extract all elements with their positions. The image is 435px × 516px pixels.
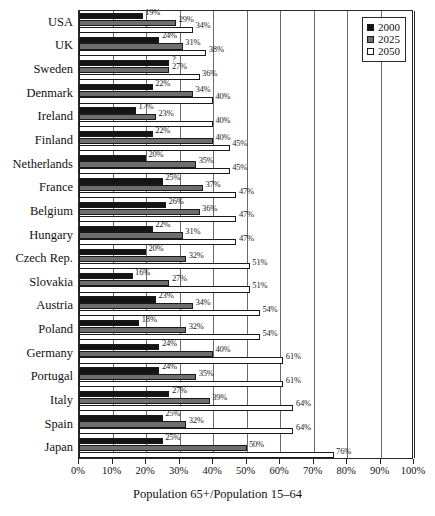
bar-2025 xyxy=(79,280,169,286)
legend-item: 2050 xyxy=(367,46,400,57)
x-tick xyxy=(78,459,79,464)
legend-label: 2000 xyxy=(378,22,400,33)
bar-value-label: 64% xyxy=(296,399,311,408)
bar-value-label: 36% xyxy=(202,204,217,213)
bar-value-label: 50% xyxy=(249,440,264,449)
bar-group: 16%27%51% xyxy=(79,271,412,295)
bar-value-label: 18% xyxy=(142,315,157,324)
bar-value-label: 27% xyxy=(172,62,187,71)
bar-group-inner: 22%40%45% xyxy=(79,129,412,153)
bar-value-label: 45% xyxy=(232,139,247,148)
bar-group: 17%23%40% xyxy=(79,106,412,130)
bar-value-label: 34% xyxy=(195,85,210,94)
bar-value-label: 34% xyxy=(195,21,210,30)
category-label: USA xyxy=(48,14,73,29)
bar-2000 xyxy=(79,273,133,279)
bar-value-label: 23% xyxy=(159,291,174,300)
bar-value-label: 51% xyxy=(252,258,267,267)
bar-value-label: 47% xyxy=(239,210,254,219)
category-label: Sweden xyxy=(33,62,73,77)
bar-value-label: 40% xyxy=(216,92,231,101)
bar-value-label: 47% xyxy=(239,234,254,243)
bar-group-inner: 26%36%47% xyxy=(79,200,412,224)
legend-label: 2025 xyxy=(378,34,400,45)
bar-value-label: 24% xyxy=(162,31,177,40)
bar-group-inner: 20%32%51% xyxy=(79,247,412,271)
bar-2000 xyxy=(79,320,139,326)
bar-2025 xyxy=(79,327,186,333)
x-tick-label: 0% xyxy=(71,465,85,476)
bar-value-label: 35% xyxy=(199,156,214,165)
bar-value-label: 32% xyxy=(189,251,204,260)
bar-value-label: 36% xyxy=(202,69,217,78)
bar-2050 xyxy=(79,263,250,269)
bar-2025 xyxy=(79,445,247,451)
bar-value-label: 25% xyxy=(165,173,180,182)
x-tick xyxy=(145,459,146,464)
bar-value-label: 37% xyxy=(205,180,220,189)
category-label: Hungary xyxy=(29,227,73,242)
category-label: Austria xyxy=(36,298,73,313)
bar-group: 25%50%76% xyxy=(79,436,412,460)
x-tick xyxy=(112,459,113,464)
bar-2025 xyxy=(79,91,193,97)
bar-2025 xyxy=(79,185,203,191)
bar-2025 xyxy=(79,114,156,120)
category-label: Czech Rep. xyxy=(15,251,73,266)
category-label: Finland xyxy=(35,132,73,147)
category-label: Italy xyxy=(50,392,73,407)
x-tick-label: 100% xyxy=(401,465,426,476)
bar-group: 20%35%45% xyxy=(79,153,412,177)
bar-value-label: 32% xyxy=(189,416,204,425)
bar-value-label: 54% xyxy=(262,329,277,338)
x-tick-label: 90% xyxy=(370,465,389,476)
bar-group: 20%32%51% xyxy=(79,247,412,271)
bar-2000 xyxy=(79,37,159,43)
bar-2000 xyxy=(79,60,169,66)
bar-value-label: 24% xyxy=(162,362,177,371)
bar-value-label: 23% xyxy=(159,109,174,118)
bar-2025 xyxy=(79,398,210,404)
bar-group: 24%35%61% xyxy=(79,365,412,389)
bar-value-label: 64% xyxy=(296,423,311,432)
x-tick xyxy=(179,459,180,464)
bar-2050 xyxy=(79,310,260,316)
bar-2000 xyxy=(79,226,153,232)
x-tick-label: 40% xyxy=(202,465,221,476)
bar-value-label: 16% xyxy=(135,268,150,277)
gridline xyxy=(414,11,415,458)
bar-rows: 19%29%34%24%31%38%?27%36%22%34%40%17%23%… xyxy=(79,11,412,458)
bar-group-inner: 22%34%40% xyxy=(79,82,412,106)
bar-group-inner: 23%34%54% xyxy=(79,295,412,319)
bar-group-inner: 17%23%40% xyxy=(79,106,412,130)
bar-2025 xyxy=(79,351,213,357)
bar-2050 xyxy=(79,121,213,127)
bar-value-label: 27% xyxy=(172,386,187,395)
x-tick-label: 50% xyxy=(236,465,255,476)
bar-2000 xyxy=(79,415,163,421)
x-tick-label: 60% xyxy=(269,465,288,476)
bar-value-label: 34% xyxy=(195,298,210,307)
x-tick xyxy=(279,459,280,464)
category-axis-labels: USAUKSwedenDenmarkIrelandFinlandNetherla… xyxy=(0,10,76,459)
bar-value-label: 31% xyxy=(185,227,200,236)
bar-2050 xyxy=(79,405,293,411)
legend-swatch-icon xyxy=(367,48,374,55)
x-tick xyxy=(212,459,213,464)
bar-2000 xyxy=(79,438,163,444)
bar-value-label: 20% xyxy=(149,150,164,159)
category-label: Slovakia xyxy=(29,274,73,289)
bar-2025 xyxy=(79,374,196,380)
bar-group-inner: 24%40%61% xyxy=(79,342,412,366)
bar-2000 xyxy=(79,249,146,255)
bar-value-label: 54% xyxy=(262,305,277,314)
bar-value-label: 25% xyxy=(165,433,180,442)
bar-2025 xyxy=(79,209,200,215)
bar-2000 xyxy=(79,13,143,19)
bar-2000 xyxy=(79,202,166,208)
category-label: France xyxy=(39,180,73,195)
category-label: Japan xyxy=(45,440,73,455)
bar-2050 xyxy=(79,168,230,174)
bar-value-label: 22% xyxy=(155,126,170,135)
bar-group: 25%37%47% xyxy=(79,176,412,200)
